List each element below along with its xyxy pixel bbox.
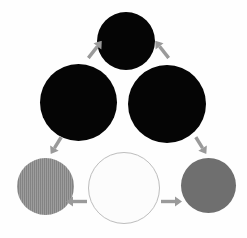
arrow-down-to-bottom-left-glyph bbox=[46, 134, 66, 157]
arrow-center-to-bottom-right-glyph bbox=[161, 196, 182, 207]
arrow-center-to-bottom-left bbox=[66, 196, 87, 207]
arrow-down-to-bottom-right bbox=[191, 134, 211, 157]
arrow-right-up-to-top bbox=[151, 37, 173, 61]
right-black-circle bbox=[128, 65, 206, 143]
arrow-right-up-to-top-glyph bbox=[151, 37, 173, 61]
bottom-right-gray-circle bbox=[181, 158, 236, 213]
left-black-circle bbox=[40, 64, 117, 141]
arrow-down-to-bottom-right-glyph bbox=[191, 134, 211, 157]
arrow-center-to-bottom-right bbox=[161, 196, 182, 207]
top-black-circle bbox=[97, 12, 155, 70]
arrow-down-to-bottom-left bbox=[46, 134, 66, 157]
bottom-center-white-circle bbox=[88, 152, 160, 224]
diagram-canvas bbox=[0, 0, 247, 238]
arrow-center-to-bottom-left-glyph bbox=[66, 196, 87, 207]
